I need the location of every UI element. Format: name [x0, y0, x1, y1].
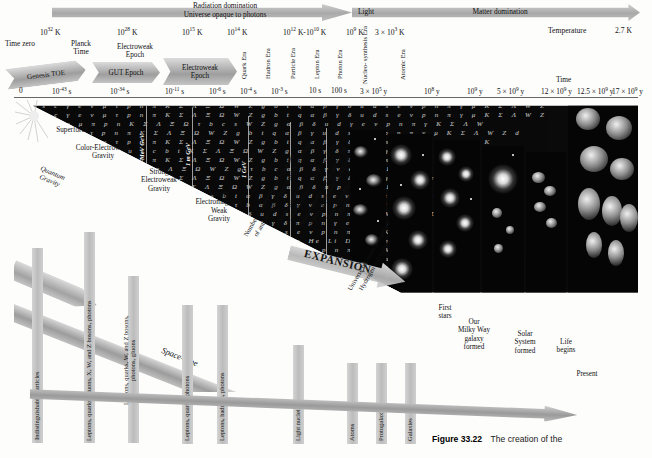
epoch-genesis-toe-label: Genesis TOE	[27, 68, 66, 81]
time-tick-5: 10-4 s	[240, 86, 257, 96]
era-quark: Quark Era	[240, 46, 247, 84]
epoch-ew-l2: Epoch	[191, 72, 209, 80]
radiation-domination-label: Radiation domination Universe opaque to …	[130, 2, 320, 19]
era-lepton-l1: Lepton	[313, 61, 320, 80]
temp-tick-4: 1012 K-1010 K	[283, 26, 326, 37]
era-photon-l2: Era	[336, 50, 343, 59]
event-mw-l1: Our	[444, 318, 504, 326]
column-label-lqp: Leptons, quarks, photons	[183, 309, 190, 441]
solar-system-panel	[482, 146, 524, 298]
time-tick-8: 100 s	[331, 86, 347, 95]
time-tick-1: 10-43 s	[52, 86, 71, 96]
epoch-gut: GUT Epoch	[92, 62, 160, 83]
era-photon-l1: Photon	[336, 61, 343, 80]
force-sem-l1: Strong	[176, 190, 262, 198]
figure-caption-text: The creation of the	[491, 434, 563, 444]
force-sem-l3: Weak	[176, 207, 262, 215]
force-ce-l2: Gravity	[54, 152, 152, 160]
era-nuc-l2: synthesis	[361, 37, 368, 61]
era-nuc-l1: Nucleo-	[361, 63, 368, 84]
event-ss-l3: formed	[501, 347, 549, 355]
era-quark-l1: Quark	[240, 62, 247, 78]
figure-caption: Figure 33.22 The creation of the	[432, 434, 562, 444]
force-se-l2: Electroweak	[124, 176, 194, 184]
event-first-stars-l1: First	[422, 304, 468, 312]
epoch-gut-label: GUT Epoch	[109, 69, 144, 77]
energy-scale-label-2: 1 m GeV	[184, 116, 191, 166]
era-nucleosynthesis: Nucleo- synthesis Era	[361, 42, 368, 84]
energy-scale-label-3: 1 GeV	[240, 136, 247, 178]
time-tick-3: 10-11 s	[165, 86, 184, 96]
era-atomic: Atomic Era	[399, 45, 406, 84]
cosmology-timeline-figure: Radiation domination Universe opaque to …	[0, 0, 652, 458]
column-lqwz-l2: photons, gluons	[129, 339, 136, 380]
era-atomic-l2: Era	[399, 49, 406, 58]
era-nuc-l3: Era	[361, 26, 368, 35]
column-label-indistinguishable: Indistinguishable particles	[33, 252, 40, 440]
light-label: Light	[344, 8, 388, 17]
column-label-light-nuclei: Light nuclei	[294, 349, 301, 441]
force-se-l1: Strong	[124, 168, 194, 176]
time-tick-14: 12.5 × 109 y	[577, 86, 613, 96]
matter-domination-label: Matter domination	[420, 8, 580, 17]
event-mw-l4: formed	[444, 343, 504, 351]
temp-tick-1: 1028 K	[117, 26, 137, 37]
time-tick-4: 10-6 s	[209, 86, 226, 96]
time-tick-11: 109 y	[467, 86, 483, 96]
temperature-final-value: 2.7 K	[615, 26, 632, 35]
time-tick-9: 3 × 105 y	[360, 86, 387, 96]
timeline-illustration: u d s c γ e ν μ τ p n π K Σ Λ Ξ Ω W Z g …	[14, 100, 638, 392]
column-label-lqwz: Leptons, quarks, W, and Z bosons, photon…	[122, 280, 144, 440]
time-tick-15: 17 × 109 y	[612, 86, 643, 96]
force-strong-em-weak-gravity: Strong Electromagnetic Weak Gravity	[176, 190, 262, 224]
epoch-ew-l1: Electroweak	[182, 64, 218, 72]
era-particle-l1: Particle	[289, 59, 296, 79]
column-label-lhp: Leptons, hadrons, photons	[218, 309, 225, 441]
temp-tick-0: 1032 K	[40, 26, 60, 37]
figure-number: Figure 33.22	[432, 434, 482, 444]
milky-way-panel	[434, 140, 480, 298]
force-sem-l2: Electromagnetic	[176, 198, 262, 206]
planck-time-label: Planck Time	[58, 40, 104, 57]
electroweak-heading-l1: Electroweak	[108, 43, 162, 51]
event-present: Present	[562, 370, 612, 378]
era-quark-l2: Era	[240, 51, 247, 60]
radiation-line-2: Universe opaque to photons	[130, 11, 320, 20]
era-particle: Particle Era	[289, 44, 296, 84]
event-solar-system: Solar System formed	[501, 330, 549, 355]
epoch-electroweak-label: Electroweak Epoch	[182, 64, 218, 80]
temp-tick-6: 3 × 103 K	[375, 26, 405, 37]
era-lepton: Lepton Era	[313, 45, 320, 84]
time-tick-7: 10 s	[309, 86, 321, 95]
era-hadron-l2: Era	[264, 49, 271, 58]
event-mw-l2: Milky Way	[444, 326, 504, 334]
planck-time-line-2: Time	[58, 48, 104, 56]
electroweak-heading: Electroweak Epoch	[108, 43, 162, 60]
era-particle-l2: Era	[289, 49, 296, 58]
epoch-genesis-toe: Genesis TOE	[5, 59, 87, 90]
force-ce-l1: Color-Electroweak	[54, 144, 152, 152]
life-begins-panel	[526, 152, 566, 300]
first-stars-panel	[388, 134, 432, 296]
time-tick-0: 0	[19, 86, 23, 95]
temp-tick-3: 1014 K	[227, 26, 247, 37]
event-life-l2: begins	[544, 346, 588, 354]
era-atomic-l1: Atomic	[399, 60, 406, 80]
temperature-axis-label: Temperature	[548, 26, 586, 35]
era-hadron: Hadron Era	[264, 44, 271, 84]
event-life-begins: Life begins	[544, 338, 588, 355]
era-hadron-l1: Hadron	[264, 60, 271, 80]
column-label-lqgxwz: Leptons, quarks, gluons, X, W, and Z bos…	[85, 236, 92, 441]
time-tick-6: 10-3 s	[271, 86, 288, 96]
electroweak-heading-l2: Epoch	[108, 51, 162, 59]
event-milky-way: Our Milky Way galaxy formed	[444, 318, 504, 352]
epoch-electroweak: Electroweak Epoch	[163, 58, 237, 85]
time-zero-label: Time zero	[5, 40, 35, 48]
event-ss-l2: System	[501, 338, 549, 346]
energy-scale-line-4	[290, 122, 291, 252]
time-tick-12: 5 × 109 y	[497, 86, 524, 96]
event-life-l1: Life	[544, 338, 588, 346]
time-tick-2: 10-34 s	[110, 86, 129, 96]
force-superforce: Superforce	[40, 126, 104, 134]
time-axis-line	[14, 97, 638, 98]
